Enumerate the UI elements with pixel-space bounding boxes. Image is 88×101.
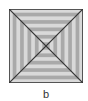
concentric-square-diagram [9, 9, 83, 83]
figure-caption: b [0, 88, 88, 100]
diagram-svg [9, 9, 83, 83]
